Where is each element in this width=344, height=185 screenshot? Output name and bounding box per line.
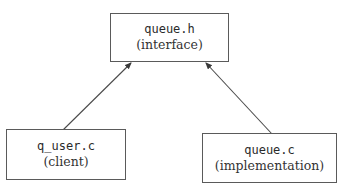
node-role-label: (implementation) [215,158,324,174]
edge-client-to-interface [63,63,131,130]
node-role-label: (client) [43,154,88,170]
dependency-diagram: queue.h (interface) q_user.c (client) qu… [0,0,344,185]
node-queue-c: queue.c (implementation) [202,133,337,183]
node-file-label: q_user.c [37,139,95,154]
node-queue-h: queue.h (interface) [110,13,229,62]
node-q-user-c: q_user.c (client) [6,129,126,180]
edge-implementation-to-interface [206,63,272,134]
node-role-label: (interface) [136,37,203,53]
node-file-label: queue.c [244,143,295,158]
node-file-label: queue.h [144,22,195,37]
